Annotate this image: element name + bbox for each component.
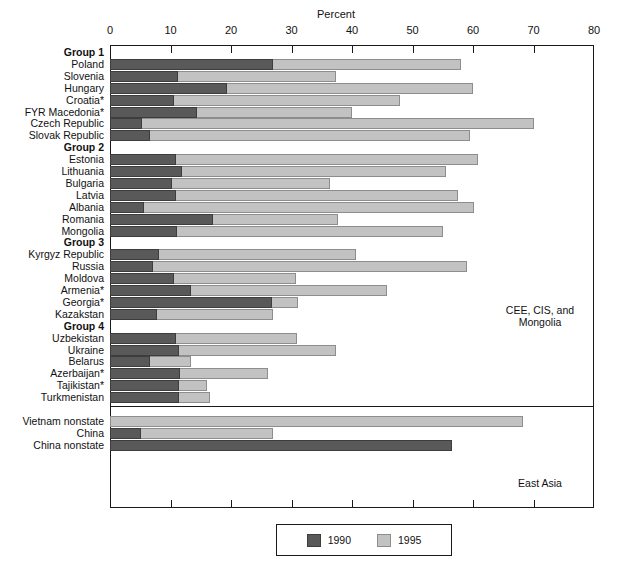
country-label: Bulgaria: [0, 178, 104, 189]
country-label: Czech Republic: [0, 118, 104, 129]
country-label: Hungary: [0, 83, 104, 94]
bar-row: [110, 130, 594, 141]
bar-segment-1990: [110, 309, 157, 320]
country-label: Kyrgyz Republic: [0, 249, 104, 260]
bar-row: [110, 273, 594, 284]
bar-segment-1990: [110, 59, 273, 70]
bar-row: [110, 59, 594, 70]
bar-segment-1990: [110, 333, 176, 344]
x-tick-label-70: 70: [527, 24, 539, 36]
country-label: Albania: [0, 202, 104, 213]
bar-segment-1990: [110, 83, 227, 94]
group-label: Group 2: [0, 142, 104, 153]
bar-segment-1990: [110, 285, 191, 296]
country-label: Moldova: [0, 273, 104, 284]
bar-segment-1990: [110, 130, 150, 141]
annotation-cee-cis-mongolia: CEE, CIS, andMongolia: [490, 304, 590, 328]
legend-item-1990: 1990: [307, 534, 351, 547]
country-label: Mongolia: [0, 226, 104, 237]
bar-row: [110, 368, 594, 379]
bar-row: [110, 226, 594, 237]
country-label: Belarus: [0, 356, 104, 367]
x-tick-label-60: 60: [467, 24, 479, 36]
country-label: Lithuania: [0, 166, 104, 177]
country-label: Georgia*: [0, 297, 104, 308]
group-label: Group 1: [0, 47, 104, 58]
x-tick-label-10: 10: [164, 24, 176, 36]
legend-label-1990: 1990: [328, 534, 351, 546]
bar-row: [110, 71, 594, 82]
bar-row: [110, 178, 594, 189]
bar-row: [110, 392, 594, 403]
bar-segment-1990: [110, 368, 180, 379]
country-label: Romania: [0, 214, 104, 225]
country-label: Azerbaijan*: [0, 368, 104, 379]
annotation-line-1: CEE, CIS, and: [490, 304, 590, 316]
bar-segment-1990: [110, 190, 176, 201]
bar-row: [110, 166, 594, 177]
country-label: Croatia*: [0, 95, 104, 106]
bar-segment-1995: [110, 130, 470, 141]
bar-row: [110, 202, 594, 213]
bar-segment-1990: [110, 202, 144, 213]
bar-segment-1990: [110, 261, 153, 272]
bar-row: [110, 214, 594, 225]
legend-label-1995: 1995: [398, 534, 421, 546]
bar-segment-1990: [110, 356, 150, 367]
country-label: Slovenia: [0, 71, 104, 82]
bar-series-layer: [110, 45, 594, 508]
bar-segment-1990: [110, 273, 174, 284]
country-label: Ukraine: [0, 345, 104, 356]
bar-row: [110, 356, 594, 367]
country-label: Armenia*: [0, 285, 104, 296]
bar-segment-1995: [110, 202, 474, 213]
bar-segment-1990: [110, 428, 141, 439]
country-label: China nonstate: [0, 440, 104, 451]
country-label: China: [0, 428, 104, 439]
country-label: Russia: [0, 261, 104, 272]
bar-segment-1990: [110, 118, 142, 129]
group-label: Group 4: [0, 321, 104, 332]
bar-segment-1990: [110, 166, 182, 177]
bar-row: [110, 190, 594, 201]
bar-row: [110, 285, 594, 296]
country-label: Poland: [0, 59, 104, 70]
x-tick-label-50: 50: [406, 24, 418, 36]
bar-row: [110, 154, 594, 165]
legend-swatch-1990: [307, 534, 321, 547]
bar-segment-1990: [110, 297, 272, 308]
annotation-east-asia: East Asia: [490, 477, 590, 489]
country-label: Vietnam nonstate: [0, 416, 104, 427]
bar-row: [110, 83, 594, 94]
bar-segment-1990: [110, 107, 197, 118]
x-tick-label-20: 20: [225, 24, 237, 36]
country-label: Turkmenistan: [0, 392, 104, 403]
bar-row: [110, 428, 594, 439]
country-label: Tajikistan*: [0, 380, 104, 391]
country-label: Uzbekistan: [0, 333, 104, 344]
chart-container: Percent 01020304050607080 Group 1PolandS…: [0, 0, 622, 579]
x-tick-label-40: 40: [346, 24, 358, 36]
country-label: Slovak Republic: [0, 130, 104, 141]
country-label: Kazakstan: [0, 309, 104, 320]
group-label: Group 3: [0, 237, 104, 248]
country-label: Estonia: [0, 154, 104, 165]
bar-segment-1990: [110, 249, 159, 260]
bar-row: [110, 416, 594, 427]
bar-segment-1990: [110, 440, 452, 451]
x-tick-label-80: 80: [588, 24, 600, 36]
bar-segment-1990: [110, 95, 174, 106]
country-label: Latvia: [0, 190, 104, 201]
legend-swatch-1995: [377, 534, 391, 547]
bar-segment-1990: [110, 214, 213, 225]
bar-segment-1995: [110, 416, 523, 427]
bar-segment-1990: [110, 178, 172, 189]
bar-segment-1995: [110, 118, 534, 129]
bar-segment-1990: [110, 154, 176, 165]
chart-legend: 1990 1995: [276, 524, 452, 556]
bar-row: [110, 107, 594, 118]
bar-segment-1990: [110, 226, 177, 237]
bar-segment-1990: [110, 71, 178, 82]
bar-segment-1990: [110, 345, 179, 356]
bar-segment-1995: [110, 261, 467, 272]
